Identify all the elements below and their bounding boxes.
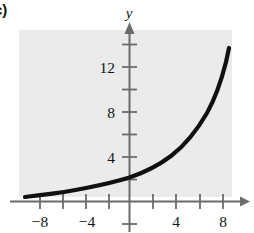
y-tick-label-12: 12 bbox=[100, 59, 116, 76]
y-tick-label-8: 8 bbox=[107, 104, 115, 121]
plot-background bbox=[19, 30, 232, 197]
x-tick-label-neg8: −8 bbox=[32, 213, 49, 230]
y-axis-arrow-icon bbox=[125, 22, 135, 34]
x-tick-label-neg4: −4 bbox=[79, 213, 96, 230]
exponential-graph: y 12 8 4 −8 −4 4 8 bbox=[0, 0, 254, 233]
x-tick-label-4: 4 bbox=[172, 213, 180, 230]
y-tick-label-4: 4 bbox=[107, 149, 115, 166]
figure-panel: c) bbox=[0, 0, 254, 233]
x-tick-label-8: 8 bbox=[219, 213, 227, 230]
y-axis-label: y bbox=[124, 5, 133, 21]
x-axis-arrow-icon bbox=[240, 197, 250, 207]
part-label: c) bbox=[0, 1, 7, 18]
